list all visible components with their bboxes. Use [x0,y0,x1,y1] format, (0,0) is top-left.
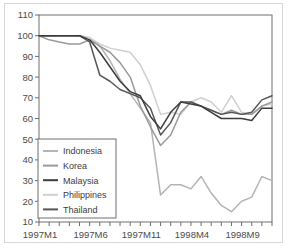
series-line-philippines [39,36,272,115]
x-axis-tick-label: 1997M11 [122,229,161,240]
x-axis-tick-label: 1997M6 [73,229,107,240]
x-axis-tick-label: 1997M1 [23,229,57,240]
y-axis-tick-label: 90 [22,51,33,62]
y-axis-tick-label: 60 [22,113,33,124]
y-axis-tick-label: 50 [22,134,33,145]
y-axis-tick-label: 100 [17,30,33,41]
y-axis-tick-label: 70 [22,92,33,103]
y-axis-tick-label: 20 [22,196,33,207]
legend-label-malaysia: Malaysia [63,176,99,186]
series-line-malaysia [39,36,272,129]
line-chart: 1020304050607080901001101997M11997M61997… [0,0,288,249]
chart-svg: 1020304050607080901001101997M11997M61997… [0,0,288,249]
y-axis-tick-label: 30 [22,175,33,186]
x-axis-tick-label: 1998M9 [225,229,259,240]
legend-label-indonesia: Indonesia [63,146,102,156]
legend-label-philippines: Philippines [63,190,107,200]
y-axis-tick-label: 10 [22,216,33,227]
series-line-thailand [39,36,272,135]
legend-label-korea: Korea [63,161,87,171]
legend-label-thailand: Thailand [63,205,98,215]
x-axis-tick-label: 1998M4 [175,229,209,240]
series-line-korea [39,36,272,146]
y-axis-tick-label: 80 [22,72,33,83]
y-axis-tick-label: 40 [22,154,33,165]
y-axis-tick-label: 110 [18,9,33,20]
